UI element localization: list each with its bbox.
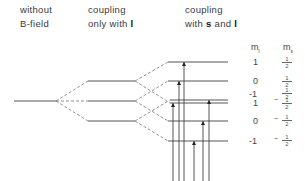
ms-sign-3: −	[274, 96, 278, 103]
ms-value-0: 12	[282, 56, 292, 69]
ms-sign-4: −	[274, 115, 278, 122]
ms-value-4: 12	[282, 114, 292, 127]
ml-value-0: 1	[253, 57, 258, 67]
ml-value-4: 0	[253, 116, 258, 126]
ms-value-5: 12	[282, 134, 292, 147]
ml-value-3: 1	[253, 98, 258, 108]
ms-value-3: 12	[282, 97, 292, 110]
energy-level-diagram	[0, 0, 305, 181]
ml-value-1: 0	[253, 76, 258, 86]
ms-sign-5: −	[274, 135, 278, 142]
ml-value-5: -1	[249, 136, 257, 146]
